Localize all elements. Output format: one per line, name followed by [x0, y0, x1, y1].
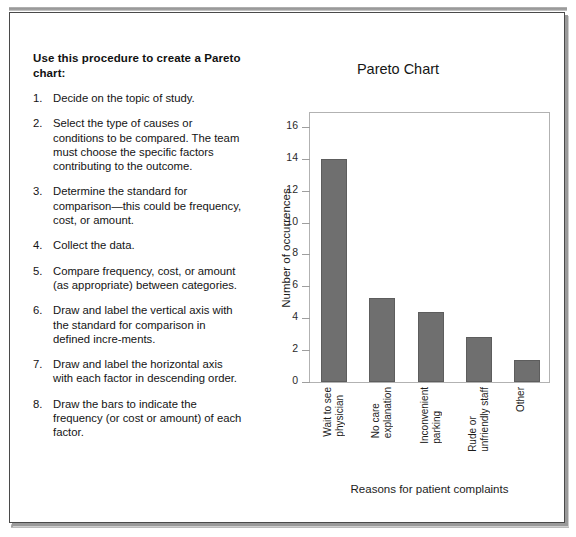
y-axis-tick-mark — [302, 159, 310, 160]
bar — [418, 312, 444, 382]
y-axis-tick-mark — [302, 223, 310, 224]
x-axis-category-label: Rude or unfriendly staff — [467, 387, 490, 452]
y-axis-tick-mark — [302, 382, 310, 383]
plot-frame: Number of occurrences 0246810121416 — [309, 112, 550, 383]
pareto-chart: Pareto Chart Number of occurrences 02468… — [232, 51, 564, 511]
y-axis-tick-mark — [302, 318, 310, 319]
procedure-step-text: Compare frequency, cost, or amount (as a… — [53, 265, 237, 291]
y-axis-tick-mark — [302, 127, 310, 128]
procedure-step-text: Draw and label the horizontal axis with … — [53, 358, 237, 384]
y-axis-tick-mark — [302, 286, 310, 287]
procedure-step-text: Select the type of causes or conditions … — [53, 117, 239, 172]
procedure-step-text: Determine the standard for comparison—th… — [53, 185, 241, 226]
y-axis-tick-label: 4 — [268, 310, 298, 322]
y-axis-tick-label: 0 — [268, 374, 298, 386]
y-axis-tick-label: 12 — [268, 183, 298, 195]
x-axis-category-label: Inconvenient parking — [419, 387, 442, 444]
procedure-step-text: Collect the data. — [53, 239, 135, 251]
procedure-step-text: Decide on the topic of study. — [53, 92, 195, 104]
procedure-step: 8.Draw the bars to indicate the frequenc… — [33, 397, 245, 440]
procedure-step-number: 4. — [33, 238, 49, 252]
bar — [369, 298, 395, 382]
y-axis-tick-mark — [302, 191, 310, 192]
y-axis-tick-label: 16 — [268, 119, 298, 131]
y-axis-tick-label: 8 — [268, 246, 298, 258]
procedure-step-text: Draw the bars to indicate the frequency … — [53, 398, 241, 439]
x-axis-title: Reasons for patient complaints — [309, 483, 550, 495]
procedure-step-number: 6. — [33, 303, 49, 317]
procedure-section: Use this procedure to create a Pareto ch… — [33, 51, 245, 451]
bar — [514, 360, 540, 382]
y-axis-tick-label: 6 — [268, 278, 298, 290]
procedure-step-number: 8. — [33, 397, 49, 411]
bar — [466, 337, 492, 382]
procedure-step-number: 2. — [33, 116, 49, 130]
procedure-step: 6.Draw and label the vertical axis with … — [33, 303, 245, 346]
procedure-step: 5.Compare frequency, cost, or amount (as… — [33, 264, 245, 293]
procedure-step-number: 3. — [33, 184, 49, 198]
y-axis-tick-mark — [302, 350, 310, 351]
procedure-step: 7.Draw and label the horizontal axis wit… — [33, 357, 245, 386]
procedure-step-text: Draw and label the vertical axis with th… — [53, 304, 233, 345]
y-axis-tick-label: 14 — [268, 151, 298, 163]
top-decorative-rule — [9, 7, 567, 11]
y-axis-tick-label: 10 — [268, 215, 298, 227]
y-axis-tick-mark — [302, 254, 310, 255]
procedure-step-number: 1. — [33, 91, 49, 105]
x-axis-category-label: Other — [515, 387, 527, 412]
procedure-step: 1.Decide on the topic of study. — [33, 91, 245, 105]
bar — [321, 159, 347, 382]
procedure-heading: Use this procedure to create a Pareto ch… — [33, 51, 245, 80]
x-axis-category-label: No care explanation — [370, 387, 393, 438]
procedure-step-number: 7. — [33, 357, 49, 371]
y-axis-tick-label: 2 — [268, 342, 298, 354]
procedure-step: 3.Determine the standard for comparison—… — [33, 184, 245, 227]
page-panel: Use this procedure to create a Pareto ch… — [9, 12, 565, 523]
procedure-step-number: 5. — [33, 264, 49, 278]
procedure-step: 4.Collect the data. — [33, 238, 245, 252]
bottom-decorative-rule — [11, 524, 569, 528]
chart-title: Pareto Chart — [232, 61, 564, 77]
procedure-step-list: 1.Decide on the topic of study.2.Select … — [33, 91, 245, 440]
procedure-step: 2.Select the type of causes or condition… — [33, 116, 245, 173]
x-axis-category-label: Wait to see physician — [322, 387, 345, 437]
plot-inner: 0246810121416 — [310, 113, 549, 382]
